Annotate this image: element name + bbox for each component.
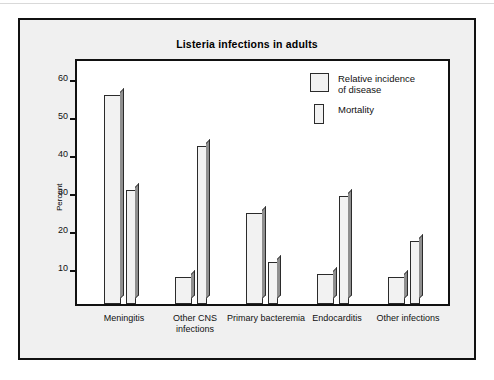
bar-mortality xyxy=(410,241,420,304)
y-axis-tick-label: 50 xyxy=(58,111,68,121)
x-axis-tick-label: Other infections xyxy=(366,313,450,324)
y-axis-tick-label: 30 xyxy=(58,187,68,197)
bar-incidence xyxy=(246,213,263,304)
y-axis-tick-mark xyxy=(70,232,77,234)
y-axis-tick: 60 xyxy=(53,80,77,81)
bar-mortality xyxy=(126,190,136,304)
bar-group xyxy=(104,61,144,304)
figure-panel: Listeria infections in adults Percent 10… xyxy=(18,18,476,360)
y-axis-tick: 40 xyxy=(53,156,77,157)
y-axis-tick: 20 xyxy=(53,232,77,233)
legend-swatch-mortality xyxy=(314,104,324,124)
y-axis-tick: 10 xyxy=(53,270,77,271)
legend-label: Mortality xyxy=(338,104,374,115)
y-axis-tick-mark xyxy=(70,156,77,158)
bar-mortality xyxy=(268,262,278,304)
plot-area: Percent 102030405060 MeningitisOther CNS… xyxy=(75,59,450,306)
legend-label: Relative incidence of disease xyxy=(338,73,415,95)
legend-item: Relative incidence of disease xyxy=(310,73,450,95)
y-axis-tick-mark xyxy=(70,270,77,272)
bar-incidence xyxy=(175,277,192,304)
page-top-rule xyxy=(0,3,494,4)
y-axis-tick-mark xyxy=(70,80,77,82)
legend-item: Mortality xyxy=(310,104,450,124)
y-axis-tick: 50 xyxy=(53,118,77,119)
y-axis-tick-label: 10 xyxy=(58,263,68,273)
bar-incidence xyxy=(317,274,334,304)
bar-mortality xyxy=(339,196,349,304)
y-axis-tick: 30 xyxy=(53,194,77,195)
chart-legend: Relative incidence of diseaseMortality xyxy=(310,73,450,133)
y-axis-tick-label: 20 xyxy=(58,225,68,235)
y-axis-tick-mark xyxy=(70,118,77,120)
bar-group xyxy=(175,61,215,304)
chart-title: Listeria infections in adults xyxy=(20,38,474,50)
y-axis-tick-mark xyxy=(70,194,77,196)
bar-incidence xyxy=(104,95,121,304)
bar-group xyxy=(246,61,286,304)
bar-mortality xyxy=(197,146,207,304)
legend-swatch-incidence xyxy=(310,73,329,92)
y-axis-tick-label: 40 xyxy=(58,149,68,159)
bar-incidence xyxy=(388,277,405,304)
y-axis-tick-label: 60 xyxy=(58,73,68,83)
